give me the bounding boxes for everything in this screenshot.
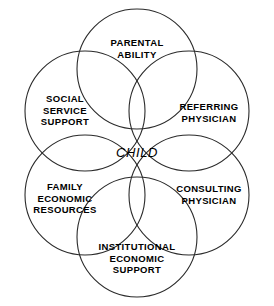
circle-institutional-economic-support <box>77 177 197 297</box>
rosette-circles-canvas <box>0 0 274 306</box>
circle-social-service-support <box>25 51 145 171</box>
circle-parental-ability <box>77 9 197 129</box>
venn-rosette-diagram: PARENTAL ABILITY REFERRING PHYSICIAN CON… <box>0 0 274 306</box>
circle-consulting-physician <box>129 135 249 255</box>
circle-referring-physician <box>129 51 249 171</box>
circle-family-economic-resources <box>25 135 145 255</box>
